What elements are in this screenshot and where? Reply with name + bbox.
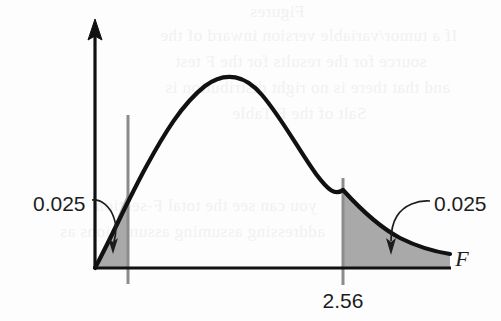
axes [88,19,451,268]
right-critical-value-label: 2.56 [323,289,364,312]
figure-root: Figures If a tumor/variable version inwa… [0,0,501,321]
right-area-label: 0.025 [434,192,487,215]
f-distribution-chart: 0.025 0.025 2.56 F [0,0,501,321]
shaded-regions [95,190,450,268]
left-area-label: 0.025 [33,192,86,215]
x-axis-label: F [454,246,469,271]
